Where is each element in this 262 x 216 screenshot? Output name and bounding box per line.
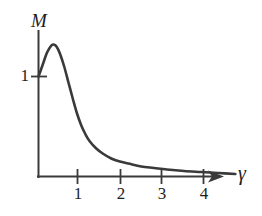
x-tick-label-4: 4 — [193, 185, 215, 202]
magnification-factor-chart: M γ 1 1 2 3 4 — [0, 0, 262, 216]
x-tick-label-3: 3 — [151, 185, 173, 202]
response-curve — [39, 44, 236, 174]
x-tick-label-2: 2 — [110, 185, 132, 202]
plot-canvas — [0, 0, 262, 216]
x-axis-title: γ — [238, 163, 246, 183]
y-tick-label-1: 1 — [13, 67, 29, 84]
x-tick-label-1: 1 — [67, 185, 89, 202]
y-axis-title: M — [31, 11, 47, 30]
